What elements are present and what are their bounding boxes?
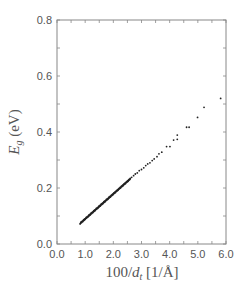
data-point xyxy=(131,176,133,178)
data-point xyxy=(153,158,155,160)
data-point xyxy=(143,167,145,169)
data-point xyxy=(186,126,188,128)
data-point xyxy=(134,173,136,175)
data-point xyxy=(197,117,199,119)
data-point xyxy=(176,134,178,136)
data-point xyxy=(141,169,143,171)
data-point xyxy=(173,139,175,141)
data-point xyxy=(188,126,190,128)
x-tick-label: 5.0 xyxy=(190,248,205,260)
y-axis-label: Eg (eV) xyxy=(6,109,24,155)
data-point xyxy=(203,106,205,108)
data-point xyxy=(161,151,163,153)
y-tick-label: 0.2 xyxy=(37,182,52,194)
data-point xyxy=(220,98,222,100)
data-point xyxy=(158,153,160,155)
chart: 0.01.02.03.04.05.06.0 0.00.20.40.60.8 10… xyxy=(0,0,246,290)
data-point xyxy=(166,146,168,148)
data-point xyxy=(156,156,158,158)
data-point xyxy=(176,138,178,140)
x-tick-labels: 0.01.02.03.04.05.06.0 xyxy=(49,248,233,260)
plot-frame xyxy=(57,20,226,244)
x-tick-label: 6.0 xyxy=(218,248,233,260)
data-point xyxy=(129,178,131,180)
axis-ticks xyxy=(57,20,226,244)
y-tick-label: 0.4 xyxy=(37,126,52,138)
x-tick-label: 1.0 xyxy=(78,248,93,260)
data-point xyxy=(147,163,149,165)
x-tick-label: 2.0 xyxy=(106,248,121,260)
data-point xyxy=(138,170,140,172)
x-tick-label: 4.0 xyxy=(162,248,177,260)
data-point xyxy=(136,172,138,174)
y-tick-label: 0.0 xyxy=(37,238,52,250)
data-point xyxy=(149,162,151,164)
x-axis-label: 100/dt [1/Å] xyxy=(105,264,178,282)
data-point xyxy=(133,175,135,177)
y-tick-label: 0.6 xyxy=(37,70,52,82)
y-tick-label: 0.8 xyxy=(37,14,52,26)
x-tick-label: 3.0 xyxy=(134,248,149,260)
data-point xyxy=(151,160,153,162)
y-tick-labels: 0.00.20.40.60.8 xyxy=(37,14,52,250)
data-point xyxy=(145,165,147,167)
data-points xyxy=(79,98,221,225)
data-point xyxy=(169,146,171,148)
